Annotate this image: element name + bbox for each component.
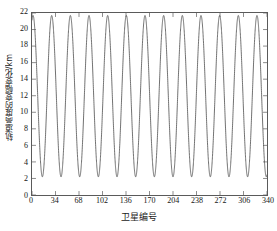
x-tick-label: 204: [167, 197, 179, 205]
x-tick-label: 136: [120, 197, 132, 205]
y-tick-label: 10: [20, 108, 28, 116]
x-tick-label: 34: [51, 197, 59, 205]
x-tick-label: 306: [238, 197, 250, 205]
y-tick-label: 4: [24, 159, 28, 167]
x-tick-label: 272: [215, 197, 227, 205]
y-tick-label: 6: [24, 142, 28, 150]
x-tick-label: 340: [262, 197, 274, 205]
chart-figure: 轨道高度的变幅变化/km 0246810121416182022 0346810…: [0, 0, 277, 231]
data-line-path: [32, 15, 267, 176]
x-axis-tick-labels: 03468102136170204238272306340: [0, 197, 277, 211]
y-tick-label: 14: [20, 75, 28, 83]
x-axis-label-text: 卫星编号: [121, 212, 157, 222]
y-tick-label: 8: [24, 125, 28, 133]
x-axis-label: 卫星编号: [0, 210, 277, 223]
x-tick-label: 170: [144, 197, 156, 205]
y-tick-label: 16: [20, 58, 28, 66]
y-tick-label: 2: [24, 175, 28, 183]
x-tick-label: 0: [29, 197, 33, 205]
y-axis-label-text: 轨道高度的变幅变化/km: [4, 54, 15, 141]
y-tick-label: 20: [20, 25, 28, 33]
data-line-svg: [32, 13, 267, 195]
x-tick-label: 68: [74, 197, 82, 205]
y-axis-tick-labels: 0246810121416182022: [14, 0, 30, 200]
x-tick-label: 102: [96, 197, 108, 205]
plot-area: [31, 12, 268, 196]
x-tick-label: 238: [191, 197, 203, 205]
y-tick-label: 22: [20, 8, 28, 16]
y-tick-label: 12: [20, 92, 28, 100]
y-tick-label: 18: [20, 41, 28, 49]
